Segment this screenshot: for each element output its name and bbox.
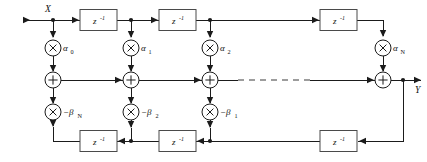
ff-delay-1-exponent: -1 [100,15,105,21]
beta-1-subscript: 1 [235,112,238,119]
fb-delay-n[interactable]: z -1 [320,131,357,152]
signal-flow-diagram: z -1 z -1 z -1 X α 0 α 1 α 2 α N [0,0,427,162]
alpha2-to-adder2-wire [207,56,213,72]
input-wire [23,17,53,23]
ff-delay-1-label: z [92,16,97,26]
ff-delay-2[interactable]: z -1 [159,10,196,31]
alpha-n-symbol: α [393,43,398,53]
multiplier-alpha-1[interactable] [123,40,139,56]
adder0-to-beta-n-wire [50,88,56,104]
ff-delay-n-exponent: -1 [340,15,345,21]
ff-drop-2 [207,20,213,38]
alpha-2-symbol: α [220,43,225,53]
ff-wire-tap0-to-delay1 [53,17,80,23]
adder-n[interactable] [375,72,391,88]
alphan-to-addern-wire [380,56,386,72]
alpha0-to-adder0-wire [50,56,56,72]
alpha-n-subscript: N [401,48,406,55]
multiplier-alpha-0[interactable] [45,40,61,56]
ff-drop-0 [50,20,56,38]
multiplier-beta-2[interactable] [123,104,139,120]
beta-n-symbol: −β [63,107,74,117]
adder2-to-beta-1-wire [207,88,213,104]
fb-wire-tap2-to-delay2 [196,138,210,144]
ff-delay-2-label: z [171,16,176,26]
fb-delay-n-exponent: -1 [340,136,345,142]
beta-2-down-wire [128,120,134,141]
output-feedback-wire [358,80,403,144]
beta-n-subscript: N [78,112,83,119]
multiplier-alpha-2[interactable] [202,40,218,56]
input-label: X [44,4,52,14]
ff-wire-tap1-to-delay2 [131,17,159,23]
output-label: Y [415,85,422,95]
ff-wire-tap2-to-delayn [210,17,320,23]
beta-n-down-wire [50,120,80,141]
adder0-to-adder1-wire [61,77,123,83]
multiplier-alpha-n[interactable] [375,40,391,56]
ff-delay-1[interactable]: z -1 [80,10,117,31]
fb-delay-1-exponent: -1 [100,136,105,142]
multiplier-beta-1[interactable] [202,104,218,120]
ff-delay-n-label: z [332,16,337,26]
ff-drop-1 [128,20,134,38]
adder-2[interactable] [202,72,218,88]
adder-1[interactable] [123,72,139,88]
alpha-0-symbol: α [63,43,68,53]
output-wire [391,77,421,83]
beta-1-symbol: −β [220,107,231,117]
beta-1-down-wire [207,120,213,141]
beta-2-symbol: −β [141,107,152,117]
adder1-to-beta-2-wire [128,88,134,104]
fb-wire-tap1-to-delay1 [117,138,131,144]
fb-delay-2[interactable]: z -1 [159,131,196,152]
alpha-2-subscript: 2 [228,48,231,55]
dash-to-addern-wire [310,77,375,83]
flow-graph-canvas: z -1 z -1 z -1 X α 0 α 1 α 2 α N [0,0,427,162]
adder-0[interactable] [45,72,61,88]
fb-delay-1-label: z [92,137,97,147]
beta-2-subscript: 2 [156,112,159,119]
fb-delay-2-label: z [171,137,176,147]
adder1-to-adder2-wire [139,77,202,83]
fb-tap-dot-2 [208,139,212,143]
ff-wire-delayn-to-alphan [357,20,386,37]
multiplier-beta-n[interactable] [45,104,61,120]
alpha1-to-adder1-wire [128,56,134,72]
alpha-1-symbol: α [141,43,146,53]
ff-delay-2-exponent: -1 [179,15,184,21]
fb-delay-1[interactable]: z -1 [80,131,117,152]
fb-delay-2-exponent: -1 [179,136,184,142]
ff-delay-n[interactable]: z -1 [320,10,357,31]
fb-delay-n-label: z [332,137,337,147]
alpha-0-subscript: 0 [71,48,74,55]
fb-tap-dot-1 [129,139,133,143]
alpha-1-subscript: 1 [149,48,152,55]
